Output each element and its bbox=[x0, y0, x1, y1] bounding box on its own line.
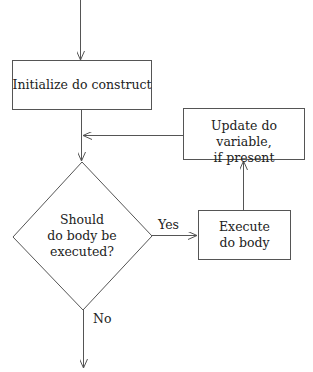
execute-label-line1: Execute bbox=[198, 219, 291, 235]
execute-label: Execute do body bbox=[198, 219, 291, 251]
init-label: Initialize do construct bbox=[12, 77, 152, 93]
flowchart-canvas bbox=[0, 0, 313, 372]
update-label-line2: if present bbox=[183, 150, 305, 166]
decision-label-line2: do body be bbox=[32, 228, 132, 244]
update-label: Update do variable, if present bbox=[183, 118, 305, 166]
no-label: No bbox=[93, 311, 123, 327]
decision-label: Should do body be executed? bbox=[32, 212, 132, 260]
execute-label-line2: do body bbox=[198, 235, 291, 251]
yes-label: Yes bbox=[158, 217, 188, 233]
decision-label-line1: Should bbox=[32, 212, 132, 228]
update-label-line1: Update do variable, bbox=[183, 118, 305, 150]
decision-label-line3: executed? bbox=[32, 244, 132, 260]
